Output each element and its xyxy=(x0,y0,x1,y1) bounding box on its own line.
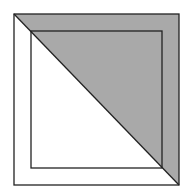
nested-squares-diagram xyxy=(0,0,190,195)
